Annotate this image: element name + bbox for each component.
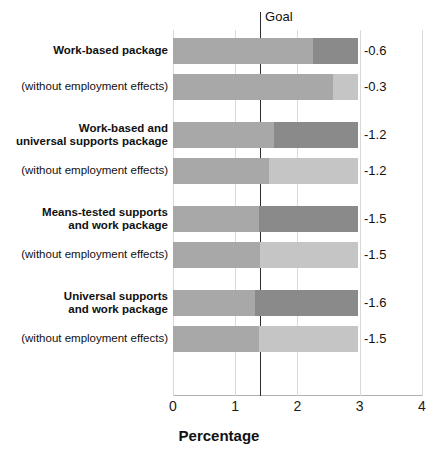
bar-segment-base (173, 38, 313, 64)
bar-segment-base (173, 290, 255, 316)
bar-value-label: -1.2 (364, 164, 386, 177)
category-label-line: (without employment effects) (0, 80, 168, 94)
category-label-line: Work-based and (0, 122, 168, 136)
bar-chart: Work-based package(without employment ef… (0, 0, 438, 455)
goal-label: Goal (265, 10, 292, 23)
bar-segment-extra (333, 74, 358, 100)
bar-value-label: -1.2 (364, 128, 386, 141)
bar-segment-base (173, 122, 274, 148)
bar-row (173, 206, 358, 232)
gridline-3 (360, 30, 361, 396)
category-label-line: and work package (0, 219, 168, 233)
bar-segment-extra (274, 122, 358, 148)
category-label-line: universal supports package (0, 135, 168, 149)
category-label-line: Work-based package (0, 44, 168, 58)
x-tick-label: 1 (231, 399, 239, 413)
bar-segment-base (173, 242, 260, 268)
category-label-line: Universal supports (0, 290, 168, 304)
bar-segment-base (173, 158, 269, 184)
bar-row (173, 290, 358, 316)
category-label: (without employment effects) (0, 332, 168, 346)
category-label: (without employment effects) (0, 164, 168, 178)
category-label-line: (without employment effects) (0, 248, 168, 262)
bar-segment-extra (255, 290, 358, 316)
bar-segment-extra (313, 38, 358, 64)
bar-segment-base (173, 326, 259, 352)
bar-segment-extra (259, 206, 358, 232)
bar-segment-extra (259, 326, 358, 352)
x-tick-label: 3 (356, 399, 364, 413)
category-label: Universal supportsand work package (0, 290, 168, 317)
bar-segment-extra (260, 242, 358, 268)
bar-row (173, 242, 358, 268)
x-tick-label: 4 (418, 399, 426, 413)
bar-value-label: -0.3 (364, 80, 386, 93)
category-label-line: and work package (0, 303, 168, 317)
x-axis-title: Percentage (0, 428, 438, 443)
bar-value-label: -1.5 (364, 332, 386, 345)
x-tick-label: 2 (293, 399, 301, 413)
category-label: Means-tested supportsand work package (0, 206, 168, 233)
bar-value-label: -0.6 (364, 44, 386, 57)
category-label: Work-based package (0, 44, 168, 58)
category-label-line: (without employment effects) (0, 332, 168, 346)
bar-row (173, 158, 358, 184)
x-tick-label: 0 (169, 399, 177, 413)
category-label: (without employment effects) (0, 248, 168, 262)
bar-row (173, 38, 358, 64)
bar-value-label: -1.5 (364, 248, 386, 261)
category-label: (without employment effects) (0, 80, 168, 94)
bar-value-label: -1.5 (364, 212, 386, 225)
gridline-4 (422, 30, 423, 396)
bar-row (173, 326, 358, 352)
category-label-line: Means-tested supports (0, 206, 168, 220)
category-label-column: Work-based package(without employment ef… (0, 0, 168, 455)
bar-segment-base (173, 74, 333, 100)
category-label: Work-based anduniversal supports package (0, 122, 168, 149)
bar-row (173, 122, 358, 148)
bar-value-label: -1.6 (364, 296, 386, 309)
category-label-line: (without employment effects) (0, 164, 168, 178)
bar-segment-extra (269, 158, 358, 184)
bar-segment-base (173, 206, 259, 232)
bar-row (173, 74, 358, 100)
